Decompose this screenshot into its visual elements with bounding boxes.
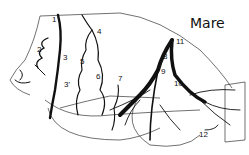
label-11: 11 xyxy=(176,38,184,46)
label-6: 6 xyxy=(96,73,100,81)
label-4: 4 xyxy=(97,28,101,36)
label-3: 3 xyxy=(63,54,67,62)
label-5: 5 xyxy=(80,58,84,66)
label-12: 12 xyxy=(199,131,208,139)
label-10: 10 xyxy=(174,80,183,88)
label-8: 8 xyxy=(163,53,167,61)
label-7: 7 xyxy=(118,75,122,83)
label-9: 9 xyxy=(161,68,165,76)
label-2: 2 xyxy=(37,46,41,54)
diagram-title: Mare xyxy=(190,15,225,31)
label-3-prime: 3' xyxy=(64,81,70,89)
label-1: 1 xyxy=(52,16,56,24)
